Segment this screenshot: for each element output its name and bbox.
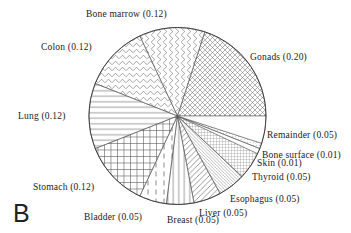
slice-label-bladder: Bladder (0.05) xyxy=(84,212,142,223)
slice-label-breast: Breast (0.05) xyxy=(167,215,219,226)
slice-label-lung: Lung (0.12) xyxy=(18,111,66,122)
pie-chart-figure: Bone marrow (0.12) Colon (0.12) Gonads (… xyxy=(0,0,351,233)
slice-label-esophagus: Esophagus (0.05) xyxy=(230,194,300,205)
slice-label-remainder: Remainder (0.05) xyxy=(267,130,337,141)
slice-label-bone-marrow: Bone marrow (0.12) xyxy=(86,9,167,20)
figure-label: B xyxy=(13,200,30,226)
slice-label-stomach: Stomach (0.12) xyxy=(33,182,94,193)
slice-label-thyroid: Thyroid (0.05) xyxy=(252,172,311,183)
slice-label-colon: Colon (0.12) xyxy=(41,42,92,53)
slice-label-gonads: Gonads (0.20) xyxy=(250,52,307,63)
slice-label-skin: Skin (0.01) xyxy=(257,158,302,169)
